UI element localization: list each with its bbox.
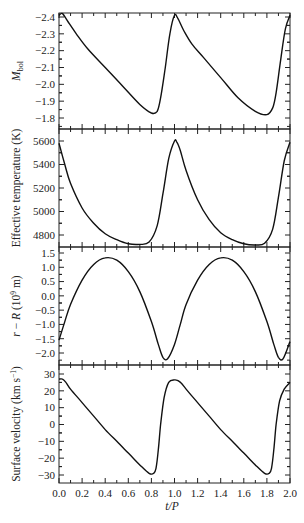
x-tick-label: 0.2 <box>75 487 89 499</box>
y-tick-label: 4800 <box>33 229 56 241</box>
y-tick-label: 0.5 <box>41 275 55 287</box>
y-tick-label: −2.3 <box>35 28 55 40</box>
data-curve <box>59 258 290 360</box>
panel-effective-temperature: 48005000520054005600Effective temperatur… <box>10 129 290 248</box>
x-tick-label: 0.6 <box>121 487 135 499</box>
x-tick-label: 1.2 <box>191 487 205 499</box>
y-tick-label: −2.0 <box>35 347 55 359</box>
y-tick-label: 1.5 <box>41 247 55 259</box>
y-tick-label: −1.9 <box>35 95 55 107</box>
data-curve <box>59 379 290 474</box>
y-axis-title: Mbol <box>10 60 25 82</box>
panel-frame <box>59 129 290 247</box>
y-tick-label: −30 <box>38 469 56 481</box>
y-axis-title: Surface velocity (km s−1) <box>9 366 23 482</box>
panel-bolometric-magnitude: −2.4−2.3−2.2−2.1−2.0−1.9−1.8Mbol <box>10 11 290 129</box>
y-tick-label: −1.8 <box>35 112 55 124</box>
panel-radius-deviation: −2.0−1.5−1.0−0.50.00.51.01.5r − R (109 m… <box>9 247 290 365</box>
y-tick-label: 30 <box>44 368 56 380</box>
y-tick-label: 0.0 <box>41 290 55 302</box>
y-tick-label: 0 <box>50 418 56 430</box>
y-tick-label: −1.0 <box>35 318 55 330</box>
y-tick-label: −2.4 <box>35 11 55 23</box>
x-tick-label: 2.0 <box>283 487 297 499</box>
y-axis-title: Effective temperature (K) <box>10 129 23 248</box>
y-axis-title: r − R (109 m) <box>9 275 23 337</box>
x-tick-label: 1.0 <box>168 487 182 499</box>
y-tick-label: 5400 <box>33 158 56 170</box>
y-tick-label: −10 <box>38 435 56 447</box>
x-tick-label: 1.6 <box>237 487 251 499</box>
x-tick-label: 1.8 <box>260 487 274 499</box>
y-tick-label: 20 <box>44 385 56 397</box>
panel-surface-velocity: −30−20−100102030Surface velocity (km s−1… <box>9 365 297 499</box>
y-tick-label: −2.0 <box>35 78 55 90</box>
x-tick-label: 0.8 <box>145 487 159 499</box>
y-tick-label: 5000 <box>33 205 56 217</box>
y-tick-label: −20 <box>38 452 56 464</box>
y-tick-label: 5600 <box>33 135 56 147</box>
x-tick-label: 0.4 <box>98 487 112 499</box>
y-tick-label: 10 <box>44 401 56 413</box>
data-curve <box>59 13 290 114</box>
y-tick-label: −2.2 <box>35 44 55 56</box>
x-tick-label: 0.0 <box>52 487 66 499</box>
cepheid-pulsation-chart: −2.4−2.3−2.2−2.1−2.0−1.9−1.8Mbol48005000… <box>0 0 304 523</box>
y-tick-label: 5200 <box>33 182 56 194</box>
x-axis-title: t/P <box>165 500 178 512</box>
y-tick-label: −2.1 <box>35 61 55 73</box>
y-tick-label: −0.5 <box>35 304 55 316</box>
data-curve <box>59 140 290 245</box>
x-tick-label: 1.4 <box>214 487 228 499</box>
y-tick-label: −1.5 <box>35 333 55 345</box>
y-tick-label: 1.0 <box>41 261 55 273</box>
